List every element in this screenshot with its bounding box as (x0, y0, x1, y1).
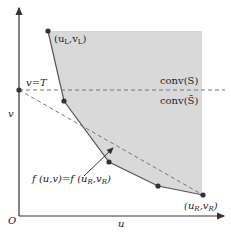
y-axis-label: v (8, 108, 14, 119)
point-threshold (16, 87, 21, 92)
diagram-canvas: (uL,vL) v=T conv(S) conv(S̄) v u O f (u,… (0, 0, 231, 233)
point-2 (61, 98, 66, 103)
point-left (45, 28, 50, 33)
right-point-label: (uR,vR) (184, 200, 218, 213)
threshold-label: v=T (26, 77, 48, 88)
conv-s-label: conv(S) (160, 75, 198, 86)
point-4 (155, 183, 160, 188)
point-right (200, 192, 205, 197)
point-3 (106, 159, 111, 164)
x-axis-label: u (118, 218, 124, 229)
level-set-label: f (u,v)=f (uR,vR) (31, 173, 111, 186)
conv-s-bar-label: conv(S̄) (160, 95, 198, 106)
origin-label: O (8, 215, 16, 226)
